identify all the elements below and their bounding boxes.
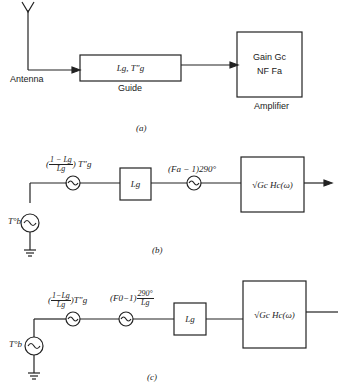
loss-box-text-c: Lg <box>174 303 206 335</box>
source-1-suffix: T"g <box>78 159 91 169</box>
source-1-label-c: (1−LgLg)T"g <box>48 292 87 309</box>
frac-den: Lg <box>57 165 65 173</box>
amplifier-label: Amplifier <box>254 102 289 111</box>
source-tb-label-c: T°b <box>9 340 22 349</box>
source-1-suffix-c: T"g <box>74 295 87 305</box>
frac-den: Lg <box>57 301 65 309</box>
antenna-label: Antenna <box>10 75 44 84</box>
amp-transfer-text-c: √Gc Hc(ω) <box>243 281 306 348</box>
source-tb-label: T°b <box>8 217 21 226</box>
caption-b: (b) <box>152 245 163 255</box>
amp-transfer-text: √Gc Hc(ω) <box>241 157 304 212</box>
guide-label: Guide <box>118 84 142 93</box>
guide-box-text: Lg, T"g <box>80 55 181 81</box>
amplifier-gain: Gain Gc <box>237 50 302 64</box>
caption-a: (a) <box>136 123 147 133</box>
source-2-label: (Fa − 1)290° <box>168 165 216 174</box>
source-2-prefix: (F0−1) <box>110 293 137 303</box>
amplifier-nf: NF Fa <box>237 64 302 78</box>
source-1-label: (1 − LgLg) T"g <box>46 156 91 173</box>
source-2-label-c: (F0−1)290°Lg <box>110 290 154 307</box>
frac-den: Lg <box>141 299 149 307</box>
loss-box-text: Lg <box>120 168 151 200</box>
caption-c: (c) <box>147 372 157 382</box>
